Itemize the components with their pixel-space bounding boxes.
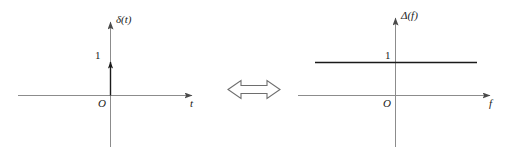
left-y-axis-label: δ(t) (116, 14, 132, 25)
equivalence-arrow-icon (228, 81, 280, 99)
left-origin-label: O (98, 98, 106, 109)
right-y-axis-label: Δ(f) (401, 10, 418, 21)
left-plot-axes (18, 22, 192, 147)
fourier-transform-pair-figure: δ(t) 1 O t Δ(f) 1 O f (0, 0, 508, 161)
left-amplitude-label: 1 (95, 50, 101, 61)
figure-canvas (0, 0, 508, 161)
right-x-axis-label: f (489, 98, 492, 109)
left-x-axis-label: t (190, 98, 193, 109)
right-origin-label: O (383, 98, 391, 109)
right-plot-axes (298, 18, 490, 147)
right-amplitude-label: 1 (385, 50, 391, 61)
